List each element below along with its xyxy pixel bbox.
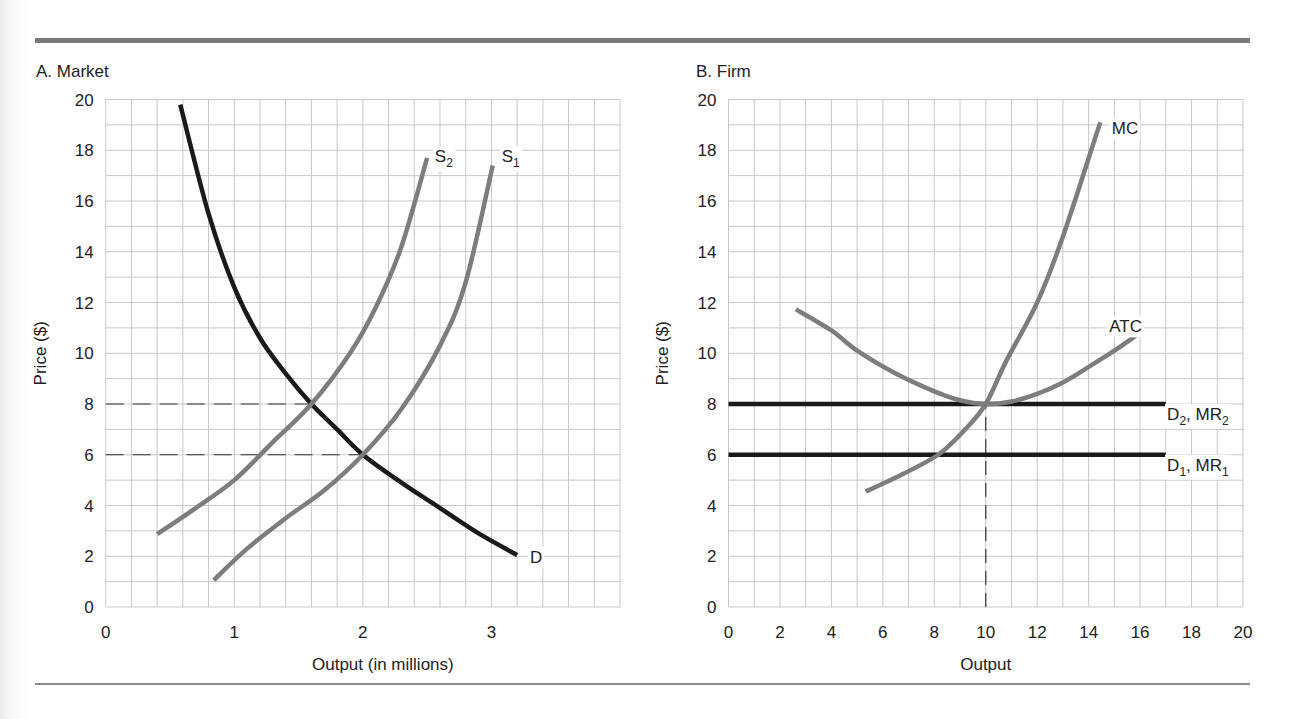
x-tick-label: 0: [724, 623, 733, 642]
x-tick-label: 6: [878, 623, 887, 642]
x-tick-label: 12: [1028, 623, 1047, 642]
x-tick-label: 20: [1234, 623, 1253, 642]
y-tick-label: 18: [698, 141, 717, 160]
x-tick-label: 4: [827, 623, 836, 642]
curve-mc: [866, 122, 1101, 491]
y-tick-label: 4: [707, 497, 716, 516]
x-tick-label: 2: [775, 623, 784, 642]
figure: A. Market B. Firm 024681012141618200123O…: [0, 0, 1291, 719]
x-axis-label: Output: [960, 655, 1011, 674]
x-tick-label: 18: [1182, 623, 1201, 642]
firm-chart: 0246810121416182002468101214161820Output…: [0, 0, 1291, 719]
y-tick-label: 12: [698, 294, 717, 313]
y-tick-label: 0: [707, 598, 716, 617]
curve-atc: [796, 309, 1136, 404]
y-axis-label: Price ($): [653, 321, 672, 385]
y-tick-label: 14: [698, 243, 717, 262]
bottom-rule: [35, 683, 1250, 685]
y-tick-label: 10: [698, 344, 717, 363]
x-tick-label: 16: [1131, 623, 1150, 642]
x-tick-label: 8: [930, 623, 939, 642]
curve-label-atc: ATC: [1109, 317, 1142, 336]
y-tick-label: 6: [707, 446, 716, 465]
curve-label-mc: MC: [1112, 119, 1138, 138]
y-tick-label: 16: [698, 192, 717, 211]
y-tick-label: 20: [698, 91, 717, 110]
y-tick-label: 2: [707, 547, 716, 566]
x-tick-label: 10: [976, 623, 995, 642]
y-tick-label: 8: [707, 395, 716, 414]
x-tick-label: 14: [1079, 623, 1098, 642]
